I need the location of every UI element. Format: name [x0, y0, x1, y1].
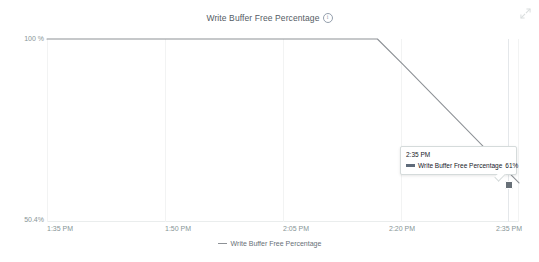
x-axis-tick-label: 2:20 PM: [389, 225, 415, 232]
chart-title-text: Write Buffer Free Percentage: [206, 13, 319, 23]
y-axis-tick-label: 100 %: [0, 35, 44, 42]
x-axis-tick-label: 2:05 PM: [283, 225, 309, 232]
plot-area[interactable]: [47, 39, 519, 222]
series-line: [47, 39, 519, 222]
chart-tooltip: 2:35 PM Write Buffer Free Percentage 61%: [400, 146, 517, 175]
tooltip-timestamp: 2:35 PM: [406, 151, 511, 158]
legend-swatch: [218, 243, 227, 245]
tooltip-series-row: Write Buffer Free Percentage 61%: [406, 162, 511, 169]
expand-icon[interactable]: [520, 8, 531, 19]
info-icon[interactable]: i: [323, 13, 333, 23]
legend-label: Write Buffer Free Percentage: [231, 240, 322, 247]
hover-data-point[interactable]: [505, 181, 513, 189]
chart-legend[interactable]: Write Buffer Free Percentage: [0, 240, 539, 247]
x-axis-tick-label: 1:50 PM: [165, 225, 191, 232]
tooltip-swatch: [406, 164, 415, 167]
tooltip-value: 61%: [505, 162, 518, 169]
x-axis-tick-label: 1:35 PM: [47, 225, 73, 232]
y-axis-tick-label: 50.4%: [0, 216, 44, 223]
tooltip-series-label: Write Buffer Free Percentage: [418, 162, 502, 169]
x-axis-tick-label: 2:35 PM: [496, 225, 522, 232]
hover-crosshair: [508, 39, 509, 222]
page-title: Write Buffer Free Percentage i: [0, 13, 539, 23]
metric-widget: Write Buffer Free Percentage i 100 % 50.…: [0, 0, 539, 262]
